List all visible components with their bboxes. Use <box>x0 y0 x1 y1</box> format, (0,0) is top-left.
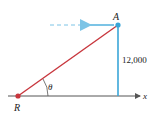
point-A <box>115 22 120 27</box>
point-R <box>15 93 20 98</box>
line-of-sight <box>18 25 118 96</box>
label-theta: θ <box>48 82 53 92</box>
label-x-axis: x <box>142 91 147 101</box>
diagram-canvas: R A θ 12,000 x <box>0 0 156 121</box>
label-R: R <box>13 102 20 113</box>
label-A: A <box>112 11 120 22</box>
label-height: 12,000 <box>122 55 147 65</box>
